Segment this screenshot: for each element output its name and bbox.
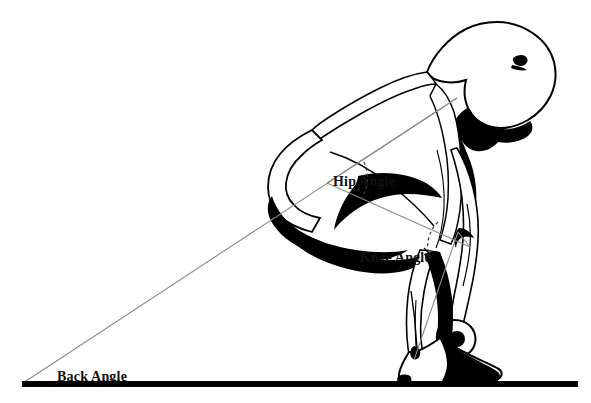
- body-figure: [268, 22, 556, 384]
- ground-line-left-taper: [22, 381, 40, 387]
- figure-canvas: [0, 0, 591, 403]
- joint-angle-figure: Hip Angle Knee Angle Back Angle: [0, 0, 591, 403]
- back-angle-label: Back Angle: [57, 370, 127, 384]
- upper-back-outline: [312, 72, 436, 140]
- knee-angle-label: Knee Angle: [360, 251, 431, 265]
- hip-angle-label: Hip Angle: [333, 175, 395, 189]
- angle-construction-lines: [23, 98, 470, 383]
